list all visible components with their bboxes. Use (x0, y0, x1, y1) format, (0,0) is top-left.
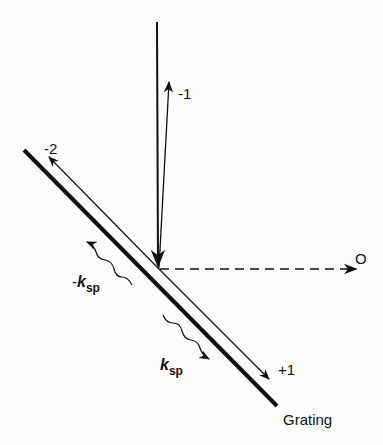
order-plus1-label: +1 (278, 362, 295, 377)
minus-ksp-label: -ksp (72, 274, 100, 294)
order-zero-label: O (355, 251, 367, 266)
diagram-canvas: -1 -2 O +1 Grating -ksp ksp (0, 0, 383, 445)
k-symbol: k (160, 356, 169, 373)
ksp-label: ksp (160, 357, 183, 377)
incident-beam-arrow (157, 22, 158, 266)
k-symbol: k (77, 273, 86, 290)
order-minus1-label: -1 (178, 86, 191, 101)
order-minus2-label: -2 (44, 141, 57, 156)
grating-label: Grating (283, 412, 332, 427)
diagram-svg (0, 0, 383, 445)
order-minus1-arrow (159, 82, 169, 268)
k-subscript: sp (86, 281, 100, 295)
order-minus2-arrow (49, 157, 158, 268)
grating-line (24, 150, 277, 406)
ksp-wavy-arrow (163, 315, 209, 359)
k-subscript: sp (169, 364, 183, 378)
